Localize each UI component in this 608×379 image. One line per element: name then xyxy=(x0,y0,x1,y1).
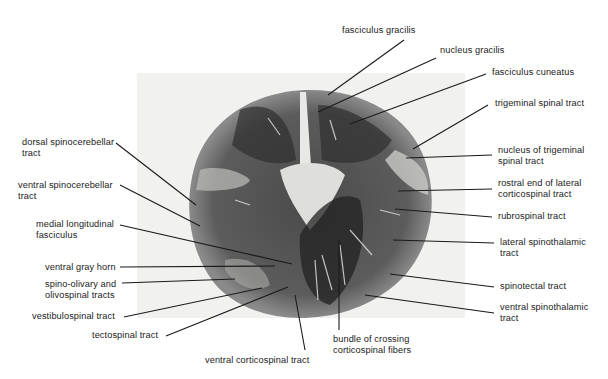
label-rostral-lcst: rostral end of lateral corticospinal tra… xyxy=(498,178,581,200)
label-ventral-spinocerebellar: ventral spinocerebellar tract xyxy=(18,180,113,202)
label-lateral-spinothalamic: lateral spinothalamic tract xyxy=(500,237,586,259)
label-bundle-crossing: bundle of crossing corticospinal fibers xyxy=(333,334,411,356)
leader-ventral-spinocerebellar xyxy=(120,185,200,226)
label-medial-longitudinal: medial longitudinal fasciculus xyxy=(36,219,114,241)
leader-dorsal-spinocerebellar xyxy=(116,143,196,205)
leader-fasciculus-gracilis xyxy=(328,40,404,95)
leader-fasciculus-cuneatus xyxy=(350,74,486,124)
leader-spinotectal xyxy=(390,274,494,287)
label-ventral-spinothalamic: ventral spinothalamic tract xyxy=(500,302,588,324)
label-trigeminal-spinal-tract: trigeminal spinal tract xyxy=(495,98,584,109)
leader-ventral-spinothalamic xyxy=(365,295,494,313)
label-rubrospinal: rubrospinal tract xyxy=(498,211,566,222)
leader-nucleus-gracilis xyxy=(318,58,436,112)
leader-trigeminal-spinal-tract xyxy=(413,105,488,149)
label-spinotectal: spinotectal tract xyxy=(500,281,566,292)
label-nucleus-trigeminal: nucleus of trigeminal spinal tract xyxy=(498,145,584,167)
label-ventral-corticospinal: ventral corticospinal tract xyxy=(205,355,309,366)
label-tectospinal: tectospinal tract xyxy=(92,330,158,341)
label-nucleus-gracilis: nucleus gracilis xyxy=(440,45,504,56)
label-vestibulospinal: vestibulospinal tract xyxy=(32,311,115,322)
label-ventral-gray-horn: ventral gray horn xyxy=(45,262,116,273)
label-fasciculus-gracilis: fasciculus gracilis xyxy=(342,25,415,36)
label-fasciculus-cuneatus: fasciculus cuneatus xyxy=(492,67,574,78)
label-spino-olivary: spino-olivary and olivospinal tracts xyxy=(45,279,116,301)
label-dorsal-spinocerebellar: dorsal spinocerebellar tract xyxy=(22,137,114,159)
